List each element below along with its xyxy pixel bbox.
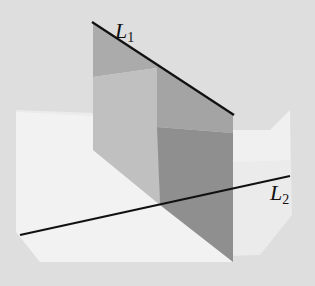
skew-lines-diagram: L1 L2 [0, 0, 315, 286]
